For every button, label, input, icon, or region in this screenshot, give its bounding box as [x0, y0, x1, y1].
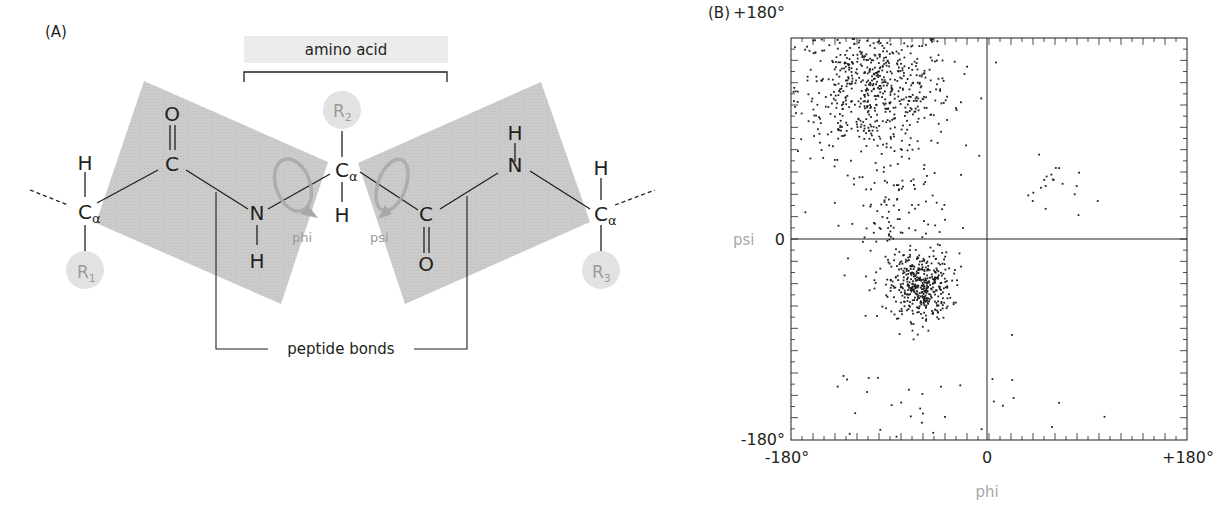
- amino-acid-bracket: [244, 72, 447, 82]
- phi-label: phi: [292, 230, 312, 245]
- amino-acid-label: amino acid: [305, 41, 388, 59]
- atom-h-left: H: [77, 151, 92, 175]
- scatter-points: [793, 38, 1106, 438]
- atom-n-2: N: [508, 153, 523, 177]
- chain-continuation-left: [30, 190, 68, 205]
- panel-b-ramachandran-plot: (B) +180° 0 -180° -180° 0 +180° psi phi: [700, 0, 1220, 519]
- peptide-plane-1: [96, 81, 328, 304]
- atom-c-2: C: [419, 202, 433, 226]
- y-tick-top: +180°: [733, 3, 785, 22]
- x-tick-right: +180°: [1162, 448, 1214, 467]
- y-axis-label: psi: [733, 231, 755, 249]
- panel-a-peptide-diagram: (A) amino acid: [0, 0, 700, 519]
- x-tick-zero: 0: [982, 448, 992, 467]
- y-tick-bottom: -180°: [741, 430, 785, 449]
- x-axis-label: phi: [975, 483, 998, 501]
- peptide-bonds-label: peptide bonds: [287, 340, 395, 358]
- atom-n-1: N: [250, 201, 265, 225]
- x-tick-left: -180°: [765, 448, 809, 467]
- atom-h-n1: H: [249, 249, 264, 273]
- atom-h-right: H: [593, 156, 608, 180]
- atom-o-1: O: [164, 102, 180, 126]
- atom-c-1: C: [165, 152, 179, 176]
- panel-a-label: (A): [45, 23, 67, 41]
- atom-c-alpha-3: Cα: [594, 202, 617, 228]
- peptide-diagram-svg: (A) amino acid: [0, 0, 700, 519]
- atom-c-alpha-2: Cα: [335, 158, 358, 184]
- panel-b-label: (B): [708, 4, 730, 22]
- atom-h-n2: H: [507, 121, 522, 145]
- chain-continuation-right: [615, 190, 655, 205]
- ramachandran-svg: (B) +180° 0 -180° -180° 0 +180° psi phi: [700, 0, 1220, 519]
- atom-h-ca2: H: [334, 203, 349, 227]
- atom-c-alpha-1: Cα: [78, 200, 101, 226]
- atom-o-2: O: [418, 252, 434, 276]
- psi-label: psi: [370, 230, 389, 245]
- y-tick-zero: 0: [775, 230, 785, 249]
